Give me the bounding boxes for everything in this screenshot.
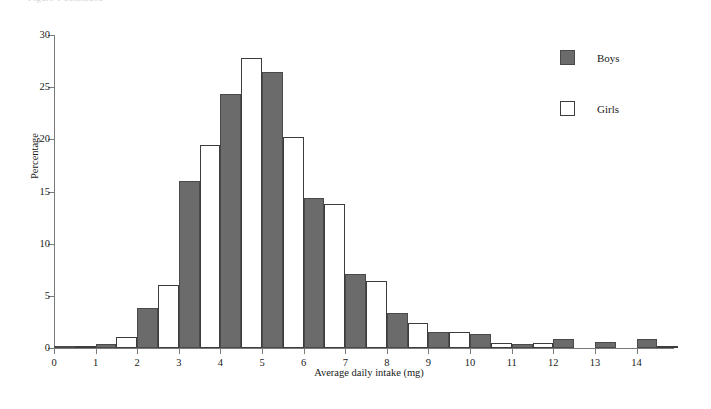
x-tick-mark	[553, 349, 554, 354]
bar-boys-5-6	[262, 72, 283, 348]
x-tick-label: 11	[507, 356, 517, 369]
x-tick-mark	[387, 349, 388, 354]
figure-container: Figure 1 continued 051015202530 01234567…	[0, 0, 711, 409]
bar-girls-2-3	[158, 285, 179, 348]
legend-label-girls: Girls	[597, 103, 619, 115]
x-tick-mark	[512, 349, 513, 354]
x-tick-label: 3	[176, 356, 181, 369]
bar-boys-6-7	[304, 198, 325, 348]
x-tick-label: 5	[259, 356, 264, 369]
bar-boys-4-5	[220, 94, 241, 348]
legend-label-boys: Boys	[597, 52, 620, 64]
x-tick-mark	[96, 349, 97, 354]
x-tick-label: 12	[548, 356, 559, 369]
y-axis-label: Percentage	[29, 133, 40, 179]
legend-swatch-girls-icon	[560, 101, 575, 116]
bar-girls-5-6	[283, 137, 304, 348]
bar-boys-0-1	[54, 346, 75, 348]
x-tick-mark	[470, 349, 471, 354]
bar-girls-3-4	[200, 145, 221, 348]
x-tick-mark	[345, 349, 346, 354]
x-tick-label: 0	[51, 356, 56, 369]
y-tick-label: 0	[45, 341, 50, 354]
x-tick-mark	[54, 349, 55, 354]
bar-boys-14-15	[637, 339, 658, 348]
x-tick-mark	[262, 349, 263, 354]
x-tick-mark	[637, 349, 638, 354]
x-tick-label: 4	[218, 356, 223, 369]
bar-boys-8-9	[387, 313, 408, 348]
bar-girls-8-9	[408, 323, 429, 348]
x-tick-mark	[220, 349, 221, 354]
bar-boys-7-8	[345, 274, 366, 348]
bar-girls-0-1	[75, 346, 96, 348]
legend-item-boys: Boys	[560, 50, 620, 65]
x-tick-label: 2	[135, 356, 140, 369]
bar-boys-1-2	[96, 344, 117, 348]
x-tick-mark	[179, 349, 180, 354]
x-tick-mark	[428, 349, 429, 354]
y-tick-label: 10	[40, 237, 51, 250]
x-tick-mark	[595, 349, 596, 354]
y-tick-label: 15	[40, 185, 51, 198]
bar-boys-11-12	[512, 344, 533, 348]
bar-boys-9-10	[428, 332, 449, 348]
x-axis-line	[54, 348, 674, 349]
y-tick-label: 25	[40, 80, 51, 93]
bars-layer	[54, 35, 674, 348]
x-axis-label: Average daily intake (mg)	[314, 367, 424, 378]
bar-girls-6-7	[324, 204, 345, 348]
bar-boys-3-4	[179, 181, 200, 348]
bar-boys-2-3	[137, 308, 158, 348]
y-tick-label: 5	[45, 289, 50, 302]
bar-boys-12-13	[553, 339, 574, 348]
bar-girls-11-12	[533, 343, 554, 348]
x-tick-label: 6	[301, 356, 306, 369]
x-tick-mark	[304, 349, 305, 354]
legend-swatch-boys-icon	[560, 50, 575, 65]
x-tick-mark	[137, 349, 138, 354]
bar-girls-10-11	[491, 343, 512, 348]
bar-girls-7-8	[366, 281, 387, 348]
bar-girls-4-5	[241, 58, 262, 348]
x-tick-label: 10	[465, 356, 476, 369]
x-tick-label: 9	[426, 356, 431, 369]
bar-girls-14-15	[657, 346, 678, 348]
bar-girls-1-2	[116, 337, 137, 348]
legend-item-girls: Girls	[560, 101, 619, 116]
x-tick-label: 13	[590, 356, 601, 369]
top-caption-fragment: Figure 1 continued	[28, 0, 103, 3]
x-tick-label: 14	[631, 356, 642, 369]
x-tick-label: 1	[93, 356, 98, 369]
y-tick-label: 30	[40, 28, 51, 41]
bar-boys-13-14	[595, 342, 616, 348]
bar-girls-9-10	[449, 332, 470, 348]
y-tick-label: 20	[40, 132, 51, 145]
bar-boys-10-11	[470, 334, 491, 348]
